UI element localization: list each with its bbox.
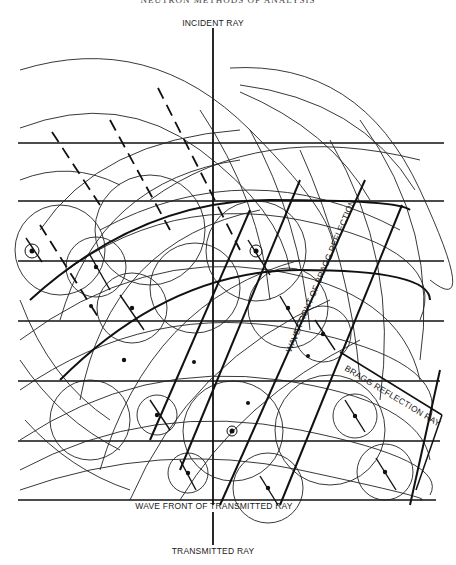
wave-front-bragg-label: WAVE FRONT OF BRAGG REFLECTION <box>284 198 358 354</box>
scatter-circles <box>15 175 413 523</box>
page-header-partial: NEUTRON METHODS OF ANALYSIS <box>141 0 316 5</box>
wave-front-transmitted-label: WAVE FRONT OF TRANSMITTED RAY <box>135 501 293 511</box>
incident-ray-label: INCIDENT RAY <box>182 18 244 28</box>
wavelet-ticks <box>26 238 396 505</box>
dashed-wave-fronts <box>40 88 240 320</box>
bragg-reflection-diagram: NEUTRON METHODS OF ANALYSIS <box>0 0 456 565</box>
lattice-planes <box>18 143 444 500</box>
transmitted-ray-label: TRANSMITTED RAY <box>172 546 255 556</box>
scatter-centers <box>25 244 387 490</box>
bragg-reflection-ray-label: BRAGG REFLECTION RAY <box>343 363 443 428</box>
